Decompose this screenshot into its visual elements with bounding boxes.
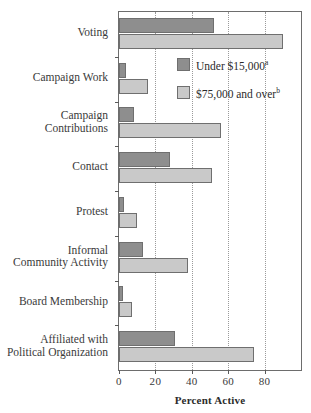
x-tick-label: 40	[186, 375, 198, 387]
legend-swatch-icon-low-income	[177, 58, 190, 71]
bar	[119, 79, 148, 94]
x-tick-label: 80	[259, 375, 271, 387]
bar	[119, 347, 254, 362]
x-axis-tick	[119, 370, 120, 374]
category-label-informal-community-activity: Informal Community Activity	[0, 244, 108, 269]
y-axis-tick	[115, 281, 119, 282]
category-label-protest: Protest	[0, 205, 108, 218]
category-label-affiliated-with-political-organization: Affiliated with Political Organization	[0, 333, 108, 358]
bar	[119, 168, 212, 183]
bar	[119, 331, 175, 346]
x-axis-tick	[228, 370, 229, 374]
category-label-campaign-contributions: Campaign Contributions	[0, 109, 108, 134]
chart-legend: Under $15,000a $75,000 and overb	[177, 58, 301, 114]
bar	[119, 63, 126, 78]
category-label-contact: Contact	[0, 160, 108, 173]
legend-item-low-income: Under $15,000a	[177, 58, 301, 72]
legend-footnote-marker: a	[265, 58, 268, 67]
y-axis-tick	[115, 325, 119, 326]
x-tick-label: 20	[150, 375, 162, 387]
y-axis-tick	[115, 191, 119, 192]
bar	[119, 286, 123, 301]
legend-label-low-income: Under $15,000a	[196, 58, 268, 72]
x-tick-labels: 020406080	[118, 375, 302, 391]
y-axis-tick	[115, 146, 119, 147]
bar	[119, 18, 214, 33]
bar	[119, 213, 137, 228]
bar	[119, 242, 143, 257]
gridline	[155, 12, 157, 370]
x-axis-tick	[155, 370, 156, 374]
legend-label-high-income: $75,000 and overb	[196, 86, 280, 100]
x-tick-label: 60	[222, 375, 234, 387]
x-axis-tick	[192, 370, 193, 374]
legend-swatch-icon-high-income	[177, 86, 190, 99]
x-axis-tick	[265, 370, 266, 374]
y-axis-tick	[115, 236, 119, 237]
bar	[119, 34, 283, 49]
category-axis-labels: VotingCampaign WorkCampaign Contribution…	[0, 11, 113, 371]
y-axis-tick	[115, 57, 119, 58]
bar	[119, 197, 124, 212]
x-axis-title: Percent Active	[118, 394, 302, 406]
legend-item-high-income: $75,000 and overb	[177, 86, 301, 100]
bar	[119, 302, 132, 317]
bar	[119, 107, 134, 122]
category-label-campaign-work: Campaign Work	[0, 71, 108, 84]
bar	[119, 123, 221, 138]
y-axis-tick	[115, 102, 119, 103]
category-label-voting: Voting	[0, 26, 108, 39]
x-tick-label: 0	[116, 375, 122, 387]
bar-chart: VotingCampaign WorkCampaign Contribution…	[0, 0, 311, 413]
bar	[119, 152, 170, 167]
category-label-board-membership: Board Membership	[0, 295, 108, 308]
bar	[119, 258, 188, 273]
legend-footnote-marker: b	[276, 86, 280, 95]
